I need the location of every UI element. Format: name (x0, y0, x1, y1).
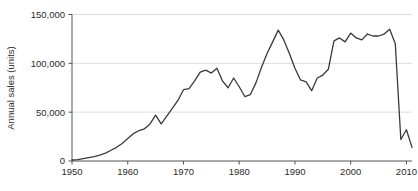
line-chart: 050,000100,000150,000 195019601970198019… (0, 0, 418, 191)
grid-lines (72, 15, 412, 113)
series-line (72, 29, 412, 160)
y-tick-label: 100,000 (31, 58, 65, 69)
y-axis-title: Annual sales (units) (5, 46, 16, 129)
y-tick-label: 50,000 (36, 107, 65, 118)
x-tick-label: 1980 (229, 166, 250, 177)
x-tick-label: 1960 (117, 166, 138, 177)
x-tick-label: 2000 (340, 166, 361, 177)
y-tick-marks (69, 15, 73, 162)
x-tick-label: 1970 (173, 166, 194, 177)
x-tick-label: 1950 (61, 166, 82, 177)
y-tick-label: 150,000 (31, 9, 65, 20)
chart-container: 050,000100,000150,000 195019601970198019… (0, 0, 418, 191)
y-tick-label: 0 (60, 155, 65, 166)
series-lines (72, 29, 412, 160)
x-tick-labels: 1950196019701980199020002010 (61, 166, 417, 177)
x-tick-label: 1990 (284, 166, 305, 177)
x-tick-marks (72, 161, 406, 165)
x-tick-label: 2010 (396, 166, 417, 177)
y-tick-labels: 050,000100,000150,000 (31, 9, 65, 167)
